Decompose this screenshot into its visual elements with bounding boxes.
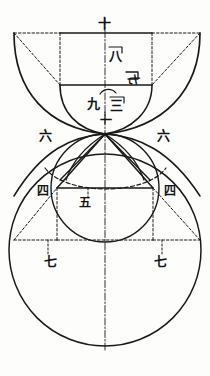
label-four-right: 四 [164,185,176,197]
label-three: 三 [110,99,123,112]
geometric-diagram [0,0,210,376]
figure-canvas: 十 八 七 九 三 一 六 六 四 四 五 七 七 古代几何圖 [0,0,210,376]
label-nine: 九 [87,97,100,110]
label-six-left: 六 [39,129,52,142]
label-seven-left: 七 [44,255,57,268]
crossing-chord-extend-left [105,134,150,180]
centre-node [103,132,106,135]
label-ten: 十 [98,17,111,30]
label-one: 一 [100,115,112,127]
small-arc-over-nine [100,89,116,94]
label-six-right: 六 [157,129,170,142]
lower-diagonal-left [14,188,57,240]
crossing-chord-extend-right [60,134,105,180]
label-seven-top: 七 [128,74,139,85]
lower-diagonal-right [153,188,200,240]
label-four-left: 四 [37,185,49,197]
label-five: 五 [79,197,91,209]
diagonal-ray-top-right [152,33,200,85]
label-eight: 八 [109,50,122,63]
label-seven-right: 七 [154,255,167,268]
